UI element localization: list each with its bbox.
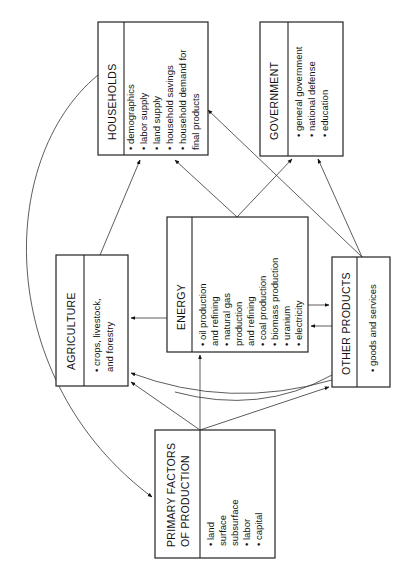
government-title: GOVERNMENT bbox=[268, 61, 280, 140]
energy-item: production bbox=[233, 302, 244, 346]
households-title: HOUSEHOLDS bbox=[106, 63, 118, 140]
primary-factors-item: subsurface bbox=[229, 500, 240, 546]
arrow-energy-to-households bbox=[175, 160, 237, 217]
government-item: • general government bbox=[293, 46, 304, 137]
energy-item: and refining bbox=[245, 296, 256, 346]
households-box: HOUSEHOLDS • demographics • labor supply… bbox=[98, 22, 208, 155]
primary-factors-item: • labor bbox=[241, 519, 252, 546]
primary-factors-item: • land bbox=[205, 522, 216, 546]
government-item: • national defense bbox=[306, 61, 317, 137]
energy-title: ENERGY bbox=[175, 284, 187, 330]
households-item: • household demand for bbox=[177, 49, 188, 150]
agriculture-title: AGRICULTURE bbox=[65, 292, 77, 370]
households-item: • household savings bbox=[164, 65, 175, 150]
energy-item: • biomass production bbox=[269, 258, 280, 346]
energy-item: • uranium bbox=[281, 306, 292, 346]
agriculture-item: and forestry bbox=[104, 322, 115, 372]
government-item: • education bbox=[319, 90, 330, 137]
primary-factors-item: surface bbox=[217, 515, 228, 546]
energy-item: • coal production bbox=[257, 276, 268, 346]
arrow-other-to-agriculture bbox=[131, 373, 332, 393]
households-item: • land supply bbox=[151, 96, 162, 150]
arrow-agriculture-to-households bbox=[100, 160, 140, 255]
other-products-box: OTHER PRODUCTS • goods and services bbox=[332, 257, 390, 387]
primary-factors-item: • capital bbox=[253, 513, 264, 546]
arrow-energy-to-government bbox=[237, 159, 292, 217]
other-products-title: OTHER PRODUCTS bbox=[340, 272, 352, 375]
primary-factors-title-line1: PRIMARY FACTORS bbox=[165, 443, 177, 547]
government-box: GOVERNMENT • general government • nation… bbox=[260, 22, 343, 156]
energy-box: ENERGY • oil production and refining • n… bbox=[167, 217, 308, 352]
primary-factors-title-line2: OF PRODUCTION bbox=[179, 455, 191, 547]
households-item: • labor supply bbox=[138, 93, 149, 150]
primary-factors-box: PRIMARY FACTORS OF PRODUCTION • land sur… bbox=[155, 430, 275, 558]
arrow-primary-to-other bbox=[200, 387, 329, 430]
curve-energy-other bbox=[175, 375, 332, 400]
agriculture-item: • crops, livestock, bbox=[91, 298, 102, 372]
economic-model-diagram: HOUSEHOLDS • demographics • labor supply… bbox=[0, 0, 406, 584]
households-item: • demographics bbox=[125, 84, 136, 150]
other-products-item: • goods and services bbox=[367, 284, 378, 372]
energy-item: and refining bbox=[209, 296, 220, 346]
energy-item: • oil production bbox=[197, 284, 208, 346]
energy-item: • electricity bbox=[293, 300, 304, 346]
energy-item: • natural gas bbox=[221, 293, 232, 346]
arrow-other-to-government bbox=[318, 159, 362, 257]
agriculture-box: AGRICULTURE • crops, livestock, and fore… bbox=[56, 255, 128, 386]
households-item: final products bbox=[190, 93, 201, 150]
